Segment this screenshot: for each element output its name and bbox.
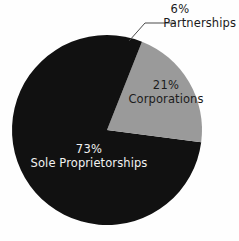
pie-chart: 6% Partnerships 21% Corporations 73% Sol…	[0, 0, 239, 241]
pie-chart-canvas	[0, 0, 239, 241]
leader-line-partnerships	[129, 23, 176, 41]
